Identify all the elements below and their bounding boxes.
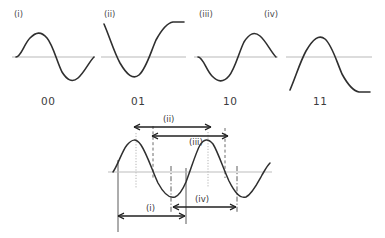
panel-ii: (ii) 01: [101, 9, 186, 107]
figure-canvas: (i) 00 (ii) 01 (iii) 10 (iv) 11: [0, 0, 385, 238]
panel-iv-bits: 11: [313, 95, 328, 107]
panel-ii-roman: (ii): [104, 9, 115, 19]
composite-diagram: (ii) (iii) (iv) (i): [108, 114, 272, 232]
panel-i-roman: (i): [14, 9, 23, 19]
span-iv-label: (iv): [195, 194, 209, 204]
panel-iii-roman: (iii): [199, 9, 213, 19]
span-i-label: (i): [146, 203, 155, 213]
panel-ii-bits: 01: [131, 95, 146, 107]
span-ii-label: (ii): [163, 114, 174, 124]
panel-iv-waveform: [290, 37, 370, 92]
panel-iv: (iv) 11: [264, 9, 372, 107]
panel-iii: (iii) 10: [194, 9, 278, 107]
panel-i: (i) 00: [12, 9, 95, 107]
panel-iii-bits: 10: [223, 95, 238, 107]
span-ii-marker: (ii): [134, 114, 211, 130]
span-iii-marker: (iii): [152, 133, 228, 147]
span-i-marker: (i): [118, 203, 185, 219]
span-iii-label: (iii): [189, 137, 203, 147]
panel-ii-waveform: [104, 22, 184, 77]
composite-waveform: [113, 140, 270, 197]
panel-i-bits: 00: [41, 95, 56, 107]
panel-iv-roman: (iv): [264, 9, 278, 19]
span-iv-marker: (iv): [173, 194, 236, 210]
